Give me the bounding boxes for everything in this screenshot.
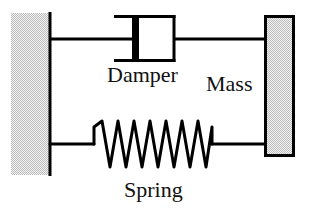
- mass-label: Mass: [206, 73, 252, 95]
- spring-label: Spring: [124, 179, 183, 201]
- spring-coil: [94, 121, 212, 167]
- fixed-wall: [11, 12, 52, 176]
- damper-piston-plate: [132, 16, 139, 61]
- spring-element: [50, 121, 265, 167]
- damper-element: [50, 15, 265, 62]
- mass-spring-damper-diagram: Damper Mass Spring: [0, 0, 310, 211]
- wall-edge-line: [49, 12, 52, 176]
- damper-label: Damper: [107, 64, 178, 86]
- mass-block: [266, 17, 294, 156]
